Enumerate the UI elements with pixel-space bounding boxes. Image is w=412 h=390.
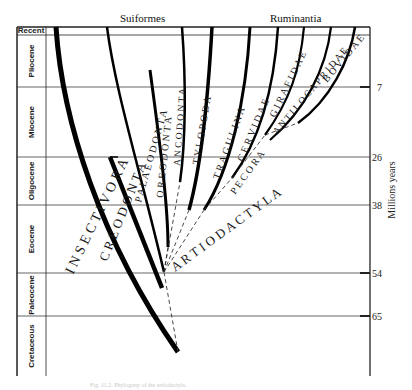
epoch-pliocene: Pliocene <box>27 44 36 77</box>
tick-7: 7 <box>377 82 382 93</box>
epoch-oligocene: Oligocene <box>27 161 36 200</box>
label-artiodactyla: A R T I O D A C T Y L A <box>168 184 284 274</box>
tick-38: 38 <box>372 200 382 211</box>
epoch-eocene: Eocene <box>27 224 36 253</box>
label-tylopoda: T Y L O P O D A <box>190 95 213 166</box>
axis-ticks: 7 26 38 54 65 Millions years <box>372 82 397 322</box>
tick-26: 26 <box>372 152 382 163</box>
epoch-cretaceous: Cretaceous <box>27 324 36 368</box>
axis-title: Millions years <box>386 161 397 219</box>
tick-65: 65 <box>372 311 382 322</box>
epoch-labels: Recent Pliocene Miocene Oligocene Eocene… <box>18 26 45 368</box>
epoch-paleocene: Paleocene <box>27 275 36 315</box>
phylogeny-diagram: Recent Pliocene Miocene Oligocene Eocene… <box>0 0 412 390</box>
label-bovidae: B O V I D A E <box>320 32 366 84</box>
tick-54: 54 <box>372 268 382 279</box>
group-ruminantia: Ruminantia <box>270 12 321 24</box>
epoch-miocene: Miocene <box>27 105 36 138</box>
dashed-links <box>164 123 298 352</box>
group-suiformes: Suiformes <box>120 12 165 24</box>
figure-caption: Fig. 11.2. Phylogeny of the artiodactyls… <box>90 382 187 388</box>
epoch-recent: Recent <box>18 26 45 35</box>
